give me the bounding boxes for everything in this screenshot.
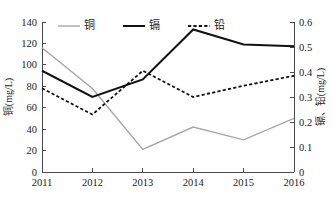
- x-tick-label: 2013: [132, 177, 153, 188]
- right-tick-label: 0.5: [299, 42, 312, 53]
- left-tick-label: 60: [27, 102, 38, 113]
- left-tick-label: 140: [21, 17, 37, 28]
- x-tick-label: 2014: [183, 177, 205, 188]
- left-tick-label: 80: [27, 81, 38, 92]
- right-tick-label: 0.4: [299, 67, 313, 78]
- legend-label-铜: 铜: [84, 18, 95, 31]
- right-tick-label: 0.1: [299, 142, 312, 153]
- x-tick-label: 2015: [233, 177, 254, 188]
- x-tick-label: 2011: [32, 177, 53, 188]
- x-tick-label: 2016: [284, 177, 305, 188]
- chart-container: 020406080100120140 00.10.20.30.40.50.6 2…: [0, 0, 332, 197]
- series-line-铅: [42, 71, 294, 115]
- series-group: [42, 30, 294, 150]
- legend-label-铅: 铅: [214, 18, 225, 31]
- left-axis-title: 铜(mg/L): [3, 78, 15, 116]
- chart-legend: 铜镉铅: [58, 18, 225, 31]
- left-tick-label: 120: [21, 38, 37, 49]
- legend-label-镉: 镉: [149, 18, 160, 31]
- x-axis-ticks: 201120122013201420152016: [32, 168, 305, 188]
- right-tick-label: 0: [299, 167, 304, 178]
- right-tick-label: 0.6: [299, 17, 312, 28]
- left-tick-label: 40: [27, 124, 38, 135]
- right-axis-ticks: 00.10.20.30.40.50.6: [290, 17, 313, 178]
- series-line-铜: [42, 48, 294, 150]
- right-tick-label: 0.3: [299, 92, 312, 103]
- right-tick-label: 0.2: [299, 117, 312, 128]
- line-chart: 020406080100120140 00.10.20.30.40.50.6 2…: [0, 0, 332, 197]
- left-tick-label: 20: [27, 145, 38, 156]
- series-line-镉: [42, 30, 294, 98]
- x-tick-label: 2012: [82, 177, 103, 188]
- left-tick-label: 0: [32, 167, 37, 178]
- left-tick-label: 100: [21, 59, 37, 70]
- right-axis-title: 镉、铅(mg/L): [314, 68, 327, 126]
